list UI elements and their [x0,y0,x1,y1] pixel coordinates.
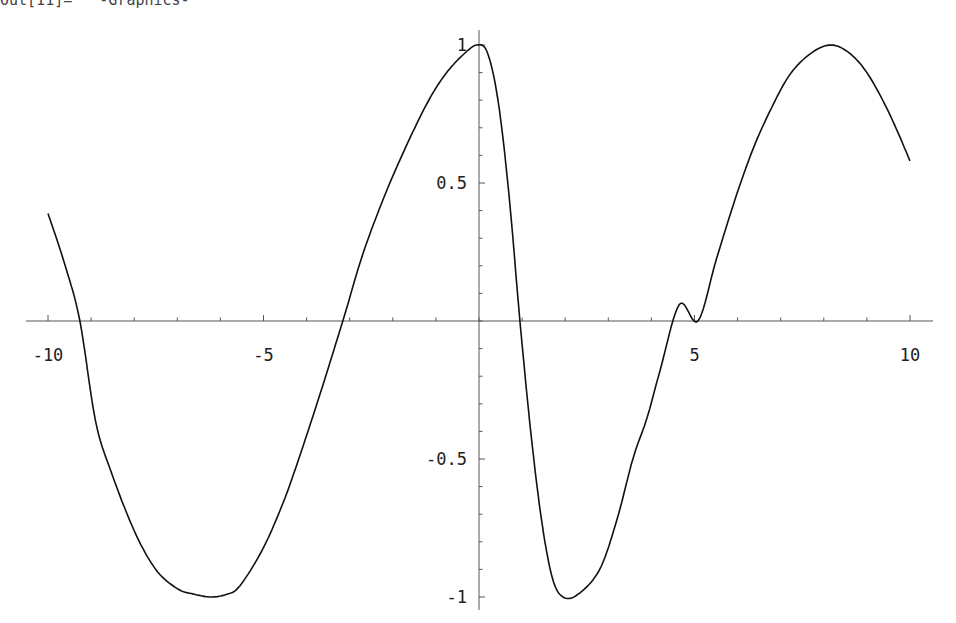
y-tick-label: 0.5 [436,173,467,193]
x-tick-label: -5 [253,345,273,365]
y-tick-label: -0.5 [426,449,467,469]
y-tick-label: -1 [447,587,467,607]
x-tick-label: 10 [900,345,920,365]
y-axis [479,30,485,610]
line-chart: -10-5510 10.5-0.5-1 [0,0,956,623]
x-tick-label: -10 [33,345,64,365]
x-tick-label: 5 [689,345,699,365]
x-tick-labels: -10-5510 [33,345,921,365]
